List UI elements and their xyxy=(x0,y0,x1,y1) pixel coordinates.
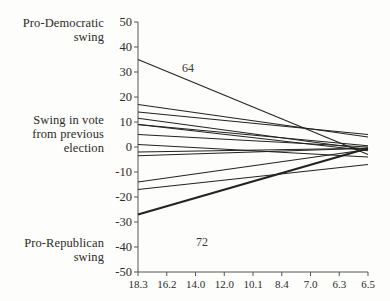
series-label-64: 64 xyxy=(182,61,194,76)
series-line xyxy=(138,105,368,138)
series-line xyxy=(138,148,368,152)
series-lines xyxy=(138,60,368,215)
series-line xyxy=(138,125,368,146)
series-line xyxy=(138,148,368,214)
series-label-72: 72 xyxy=(196,235,208,250)
plot-area xyxy=(0,0,390,301)
chart-figure: Pro-Democratic swing Swing in vote from … xyxy=(0,0,390,301)
